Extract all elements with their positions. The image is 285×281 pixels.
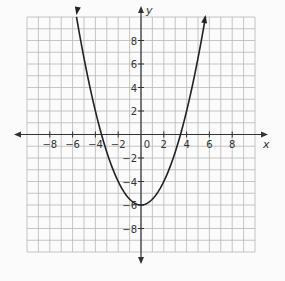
x-axis-arrow-left-icon bbox=[14, 132, 21, 138]
x-tick-label: 0 bbox=[144, 139, 150, 150]
coordinate-plane: −8−6−4−202468−8−6−4−22468 x y bbox=[0, 0, 285, 281]
x-axis-arrow-right-icon bbox=[261, 132, 268, 138]
y-tick-label: −8 bbox=[122, 224, 137, 235]
y-tick-label: 8 bbox=[131, 36, 137, 47]
y-axis-arrow-down-icon bbox=[138, 257, 144, 264]
x-tick-label: −4 bbox=[88, 139, 103, 150]
x-tick-label: 8 bbox=[229, 139, 235, 150]
x-axis-label: x bbox=[262, 138, 270, 151]
x-tick-label: 2 bbox=[161, 139, 167, 150]
x-tick-label: −2 bbox=[111, 139, 126, 150]
curve-arrow-icon bbox=[201, 15, 207, 23]
y-tick-label: −4 bbox=[122, 177, 137, 188]
x-tick-label: −8 bbox=[42, 139, 57, 150]
curve-arrow-icon bbox=[75, 7, 81, 15]
y-tick-label: −6 bbox=[122, 200, 137, 211]
x-tick-label: 6 bbox=[206, 139, 212, 150]
axes bbox=[14, 6, 268, 264]
y-tick-label: 4 bbox=[131, 83, 137, 94]
y-axis-label: y bbox=[145, 4, 153, 17]
x-tick-label: 4 bbox=[183, 139, 189, 150]
y-tick-label: 2 bbox=[131, 106, 137, 117]
y-tick-label: 6 bbox=[131, 59, 137, 70]
x-tick-label: −6 bbox=[65, 139, 80, 150]
y-axis-arrow-up-icon bbox=[138, 6, 144, 13]
y-tick-label: −2 bbox=[122, 153, 137, 164]
